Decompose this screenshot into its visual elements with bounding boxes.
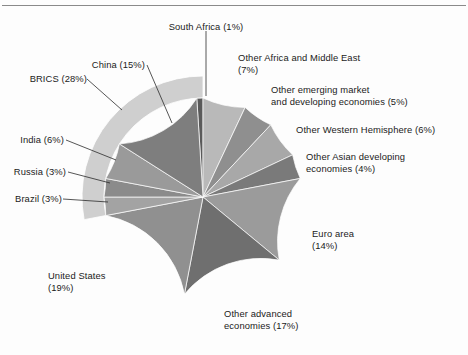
label-china: China (15%) <box>0 59 145 71</box>
pie-chart-figure: South Africa (1%) Other Africa and Middl… <box>0 0 468 355</box>
label-south-africa: South Africa (1%) <box>152 21 260 33</box>
label-brazil: Brazil (3%) <box>0 193 62 205</box>
label-russia: Russia (3%) <box>0 166 66 178</box>
label-other-advanced-economies: Other advanced economies (17%) <box>224 308 364 331</box>
label-other-emerging-market: Other emerging market and developing eco… <box>271 84 461 107</box>
label-brics: BRICS (28%) <box>0 73 87 85</box>
label-india: India (6%) <box>0 134 64 146</box>
label-other-western-hemisphere: Other Western Hemisphere (6%) <box>296 124 468 136</box>
label-euro-area: Euro area (14%) <box>312 228 432 251</box>
label-united-states: United States (19%) <box>48 270 178 293</box>
leader-brics <box>87 79 122 110</box>
label-other-asian-developing: Other Asian developing economies (4%) <box>306 151 466 174</box>
label-other-africa-middle-east: Other Africa and Middle East (7%) <box>238 52 438 75</box>
